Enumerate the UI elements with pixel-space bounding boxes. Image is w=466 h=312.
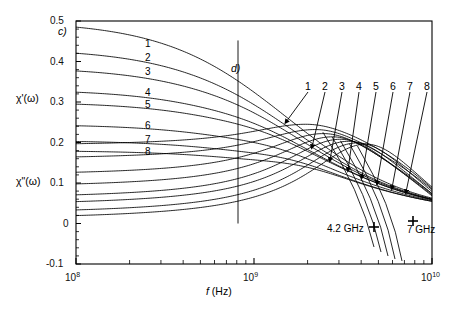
y-tick-label: 0.2 [50,137,64,148]
arrow-number-5: 5 [373,80,379,92]
arrow-number-2: 2 [322,80,328,92]
y-axis-title-chi-prime: χ'(ω) [16,92,39,104]
marker-4p2ghz [369,222,379,232]
arrow-number-4: 4 [356,80,362,92]
y-tick-label: 0.1 [50,177,64,188]
arrow-number-1: 1 [305,80,311,92]
curve-number-1: 1 [145,38,151,49]
leader-line-6 [377,92,393,183]
curve-number-2: 2 [145,52,151,63]
y-tick-label: -0.1 [46,258,63,269]
x-axis-title-units: (Hz) [209,285,232,297]
leader-line-4 [348,92,359,170]
figure-root: χ'(ω) χ"(ω) f (Hz) c) d) 4.2 GHz 7 GHz -… [0,0,466,312]
x-tick-label: 109 [243,271,258,283]
arrow-number-3: 3 [339,80,345,92]
curve-number-6: 6 [145,120,151,131]
arrow-number-7: 7 [407,80,413,92]
arrow-number-8: 8 [424,80,430,92]
y-tick-label: 0.3 [50,96,64,107]
y-tick-label: 0.5 [50,15,64,26]
panel-tag-c: c) [58,25,67,37]
resonance-tail-4 [349,144,395,259]
marker-label-7ghz: 7 GHz [407,224,435,235]
curve-number-8: 8 [145,146,151,157]
curve-number-7: 7 [145,134,151,145]
curve-number-5: 5 [145,99,151,110]
curve-chi-prime-2 [76,53,432,199]
marker-label-4p2ghz: 4.2 GHz [327,223,364,234]
curve-number-3: 3 [145,66,151,77]
chart-canvas [0,0,466,312]
arrow-number-6: 6 [390,80,396,92]
y-tick-label: 0.4 [50,56,64,67]
x-axis-title: f (Hz) [206,285,232,297]
x-tick-label: 1010 [421,271,440,283]
leader-line-5 [362,92,376,177]
panel-tag-d: d) [231,62,240,74]
y-tick-label: 0 [63,218,69,229]
y-axis-title-chi-double-prime: χ"(ω) [16,175,40,187]
curve-number-4: 4 [145,87,151,98]
leader-line-1 [286,92,308,122]
x-tick-label: 108 [65,271,80,283]
